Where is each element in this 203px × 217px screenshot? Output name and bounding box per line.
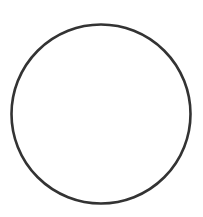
circle-diagram [0, 0, 203, 217]
circle-outline [12, 25, 191, 204]
diagram-canvas [0, 0, 203, 217]
